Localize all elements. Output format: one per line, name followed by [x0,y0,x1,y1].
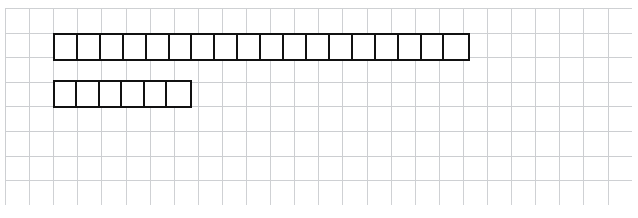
short-bar [53,80,192,108]
long-bar [53,33,470,61]
bar-cell [145,82,167,106]
bar-cell [215,35,238,59]
bar-cell [101,35,124,59]
bar-cell [167,82,189,106]
bar-cell [261,35,284,59]
bar-cell [55,82,77,106]
bar-cell [238,35,261,59]
bar-cell [307,35,330,59]
bar-cell [124,35,147,59]
bar-cell [170,35,193,59]
bar-cell [122,82,144,106]
bar-cell [422,35,445,59]
bar-cell [330,35,353,59]
bar-cell [376,35,399,59]
bar-cell [353,35,376,59]
bar-cell [147,35,170,59]
bar-cell [78,35,101,59]
bar-cell [77,82,99,106]
bar-cell [192,35,215,59]
bar-cell [55,35,78,59]
bar-cell [284,35,307,59]
bar-cell [100,82,122,106]
diagram-canvas [0,0,638,218]
bar-cell [399,35,422,59]
bar-cell [444,35,467,59]
